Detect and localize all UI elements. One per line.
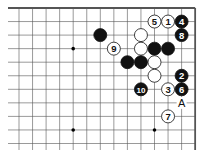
star-point (71, 128, 75, 132)
white-stone (148, 69, 161, 82)
star-point (153, 128, 157, 132)
black-stone: 2 (175, 69, 188, 82)
move-number: 10 (136, 86, 145, 95)
move-number: 1 (165, 16, 171, 27)
black-stone (148, 42, 161, 55)
black-stone (121, 56, 134, 69)
point-label: A (178, 97, 186, 109)
go-board-diagram: 51489210367A (0, 0, 206, 155)
white-stone (134, 29, 147, 42)
white-stone: 7 (162, 110, 175, 123)
move-number: 4 (179, 16, 185, 27)
black-stone (94, 29, 107, 42)
black-stone (134, 56, 147, 69)
white-stone: 3 (162, 83, 175, 96)
move-number: 3 (165, 84, 170, 95)
black-stone: 4 (175, 15, 188, 28)
black-stone (162, 42, 175, 55)
star-point (71, 47, 75, 51)
white-stone: 5 (148, 15, 161, 28)
move-number: 7 (165, 111, 170, 122)
white-stone (148, 56, 161, 69)
black-stone: 8 (175, 29, 188, 42)
move-number: 2 (179, 70, 184, 81)
move-number: 5 (152, 16, 158, 27)
white-stone: 9 (107, 42, 120, 55)
black-stone: 10 (134, 83, 147, 96)
black-stone: 6 (175, 83, 188, 96)
white-stone: 1 (162, 15, 175, 28)
move-number: 9 (111, 43, 116, 54)
move-number: 8 (179, 30, 184, 41)
move-number: 6 (179, 84, 184, 95)
white-stone (134, 42, 147, 55)
